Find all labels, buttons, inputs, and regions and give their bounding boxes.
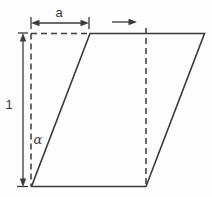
shear-direction-arrow [112,19,137,25]
arrowhead-up-icon [20,33,26,42]
arrowhead-down-icon [20,179,26,188]
arrowhead-forward-icon [129,19,138,25]
shear-diagram-canvas: a 1 α [0,0,212,197]
original-rectangle-dashed [31,28,146,186]
dimension-1-arrow [17,33,28,187]
shear-diagram: a 1 α [0,0,212,197]
sheared-parallelogram [32,34,205,187]
label-alpha: α [34,132,43,147]
label-1: 1 [5,97,12,112]
label-a: a [55,5,63,20]
arrowhead-left-icon [31,20,40,26]
arrowhead-right-icon [81,20,90,26]
